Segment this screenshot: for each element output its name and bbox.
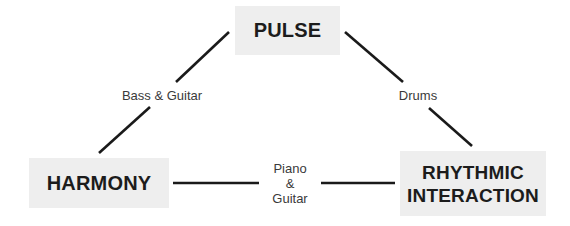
node-harmony: HARMONY [29,158,169,208]
node-rhythmic-interaction: RHYTHMIC INTERACTION [400,151,546,216]
edge-pulse-rhythmic-upper [345,32,403,82]
edge-label-bass-guitar: Bass & Guitar [112,88,212,104]
edge-label-piano: Piano [262,161,318,176]
edge-label-drums: Drums [388,88,448,104]
edge-pulse-harmony-upper [176,32,229,82]
edge-label-ampersand: & [262,176,318,191]
node-rhythmic-label-line1: RHYTHMIC [422,161,524,184]
edge-label-guitar: Guitar [262,191,318,206]
node-harmony-label: HARMONY [47,172,152,195]
edge-label-piano-guitar: Piano & Guitar [262,161,318,206]
node-rhythmic-label-line2: INTERACTION [407,184,539,207]
edge-pulse-rhythmic-lower [429,108,472,146]
edge-pulse-harmony-lower [99,107,150,153]
node-pulse-label: PULSE [254,19,322,42]
node-pulse: PULSE [235,6,340,55]
